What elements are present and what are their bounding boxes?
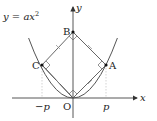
y-axis-label: y bbox=[75, 2, 82, 13]
label-b: B bbox=[63, 26, 70, 37]
equal-side-marks bbox=[56, 45, 92, 84]
point-c bbox=[40, 63, 43, 66]
x-axis-label: x bbox=[140, 92, 146, 103]
point-a bbox=[104, 63, 107, 66]
parabola-square-diagram: y = ax2 y x B A C O −p p bbox=[0, 0, 157, 121]
square-oabc bbox=[42, 32, 106, 98]
label-origin: O bbox=[63, 101, 71, 112]
label-a: A bbox=[108, 60, 117, 71]
tick-pos-p: p bbox=[103, 101, 110, 112]
point-b bbox=[71, 30, 74, 33]
label-c: C bbox=[32, 60, 40, 71]
tick-neg-p: −p bbox=[35, 101, 50, 112]
curve-label: y = ax2 bbox=[2, 10, 39, 22]
